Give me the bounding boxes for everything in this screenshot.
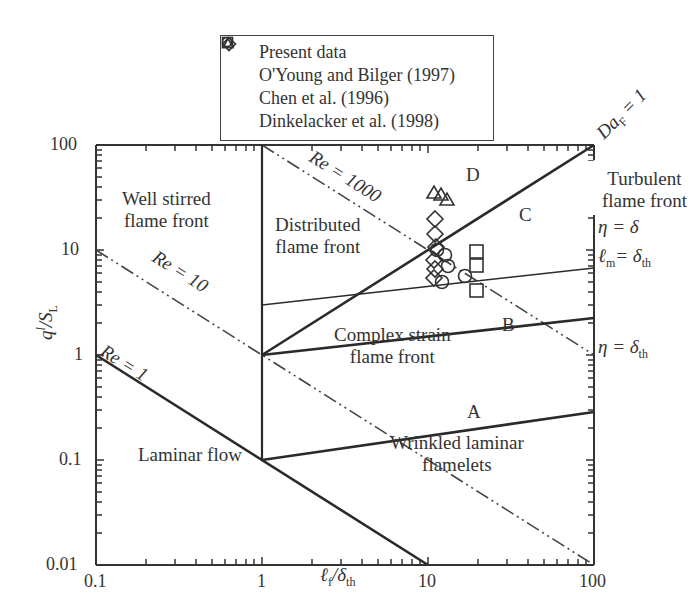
legend-item-chen: Chen et al. (1996) <box>229 87 493 110</box>
region-C: C <box>519 204 532 226</box>
y-tick-100: 100 <box>50 134 77 155</box>
x-axis-label: ℓf/δth <box>320 564 355 593</box>
legend-label: Chen et al. (1996) <box>259 88 389 109</box>
legend-label: O'Young and Bilger (1997) <box>259 65 455 86</box>
y-tick-0.01: 0.01 <box>46 554 78 575</box>
series-dinkelacker-triangles <box>427 186 454 205</box>
re-10-line <box>96 250 594 565</box>
y-tick-10: 10 <box>61 239 79 260</box>
region-distributed: Distributedflame front <box>275 214 361 258</box>
region-laminar-flow: Laminar flow <box>138 444 242 466</box>
eta-delta-th-label: η = δth <box>598 336 648 365</box>
x-tick-100: 100 <box>579 571 606 592</box>
legend-item-oyoung-bilger: O'Young and Bilger (1997) <box>229 64 493 87</box>
region-A: A <box>467 401 481 423</box>
legend-label: Dinkelacker et al. (1998) <box>259 111 439 132</box>
legend-label: Present data <box>259 42 346 63</box>
region-B: B <box>502 314 515 336</box>
region-wrinkled-laminar: Wrinkled laminarflamelets <box>390 432 524 476</box>
y-axis-label: ql/SL <box>30 305 64 340</box>
y-tick-0.1: 0.1 <box>59 449 82 470</box>
x-tick-0.1: 0.1 <box>84 571 107 592</box>
region-complex-strain: Complex strainflame front <box>334 324 451 368</box>
x-axis-ticks-bottom <box>146 557 594 565</box>
legend-item-present-data: Present data <box>229 41 493 64</box>
x-tick-10: 10 <box>418 571 436 592</box>
region-well-stirred: Well stirredflame front <box>122 188 211 232</box>
region-turbulent: Turbulentflame front <box>602 168 687 212</box>
eta-delta-label: η = δ <box>598 216 639 238</box>
x-tick-1: 1 <box>257 571 266 592</box>
legend: Present data O'Young and Bilger (1997) C… <box>220 35 494 141</box>
y-axis-ticks-left <box>96 145 104 533</box>
lm-delta-th-label: ℓm= δth <box>598 245 651 274</box>
series-oyoung-squares <box>470 245 483 297</box>
y-tick-1: 1 <box>74 344 83 365</box>
eta-delta-line <box>262 268 594 305</box>
x-axis-ticks-top <box>146 145 594 153</box>
legend-item-dinkelacker: Dinkelacker et al. (1998) <box>229 110 493 133</box>
region-D: D <box>466 164 480 186</box>
